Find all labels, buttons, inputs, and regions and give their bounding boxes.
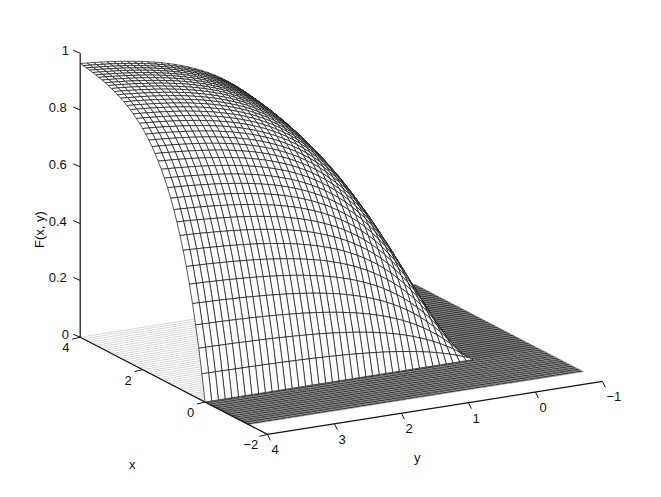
tick-label: 1 [62,44,69,57]
tick-label: 0.8 [49,101,67,114]
z-axis-label: F(x, y) [33,211,46,248]
tick-label: 3 [338,433,345,446]
tick-label: −1 [606,390,621,403]
tick-label: 0 [187,406,194,419]
tick-label: 0.6 [49,158,67,171]
surface-plot [0,0,661,497]
tick-label: 0 [539,401,546,414]
tick-label: 2 [125,374,132,387]
tick-label: −2 [243,438,258,451]
tick-label: 0.2 [49,271,67,284]
tick-label: 4 [62,341,69,354]
tick-label: 2 [405,422,412,435]
tick-label: 4 [271,443,278,456]
y-axis-label: y [414,451,421,464]
x-axis-label: x [129,458,136,471]
tick-label: 1 [472,412,479,425]
tick-label: 0.4 [49,215,67,228]
